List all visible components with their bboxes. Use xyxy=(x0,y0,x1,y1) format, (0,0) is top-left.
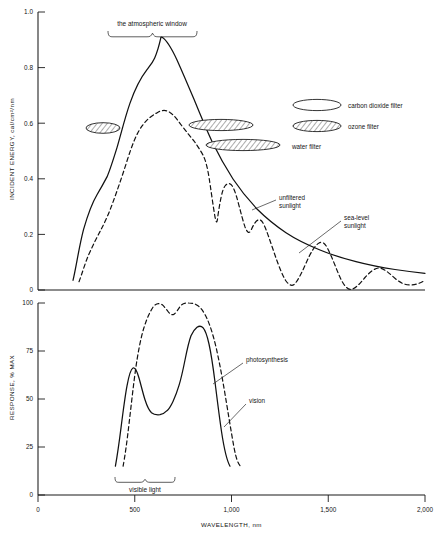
legend-label-water: water filter xyxy=(291,143,321,150)
bottom-x-axis-title: WAVELENGTH, nm xyxy=(201,521,262,528)
bottom-ytick-100: 100 xyxy=(22,299,33,306)
photosynthesis-label: photosynthesis xyxy=(246,356,288,364)
bottom-xtick-1000: 1,000 xyxy=(224,506,240,513)
top-ytick-0-4: 0.4 xyxy=(24,175,33,182)
vision-label: vision xyxy=(249,397,266,404)
legend-item-ozone: ozone filter xyxy=(293,120,379,131)
unfiltered-sunlight-annotation: unfiltered sunlight xyxy=(252,194,305,210)
legend-label-ozone: ozone filter xyxy=(348,123,379,130)
bottom-ytick-25: 25 xyxy=(26,443,34,450)
unfiltered-sunlight-label-line1: unfiltered xyxy=(279,194,305,201)
visible-light-label: visible light xyxy=(129,486,161,494)
bottom-xtick-2000: 2,000 xyxy=(417,506,433,513)
curve-photosynthesis xyxy=(115,326,230,466)
chart-biological-response: 100 75 50 25 0 RESPONSE, % MAX 0 500 1,0… xyxy=(8,299,433,528)
legend-item-water: water filter xyxy=(291,143,321,150)
bottom-ytick-75: 75 xyxy=(26,347,34,354)
legend-item-carbon-dioxide: carbon dioxide filter xyxy=(293,99,403,110)
filter-band-carbon-dioxide xyxy=(189,119,253,130)
filter-band-water xyxy=(206,139,280,150)
top-ytick-1-0: 1.0 xyxy=(24,8,33,15)
figure-canvas: 1.0 0.8 0.6 0.4 0.2 0 INCIDENT ENERGY, c… xyxy=(0,0,435,539)
top-ytick-0-2: 0.2 xyxy=(24,231,33,238)
legend-label-carbon-dioxide: carbon dioxide filter xyxy=(348,102,403,109)
bottom-xtick-1500: 1,500 xyxy=(320,506,336,513)
sea-level-sunlight-label-line1: sea-level xyxy=(344,214,369,221)
sea-level-sunlight-label-line2: sunlight xyxy=(344,222,366,230)
curve-unfiltered-sunlight xyxy=(73,37,425,280)
bottom-y-axis-title: RESPONSE, % MAX xyxy=(8,355,15,420)
top-ytick-0-6: 0.6 xyxy=(24,120,33,127)
bottom-y-ticks xyxy=(38,303,45,495)
top-y-ticks xyxy=(38,12,45,290)
bottom-xtick-0: 0 xyxy=(36,506,40,513)
unfiltered-sunlight-label-line2: sunlight xyxy=(279,202,301,210)
bottom-ytick-0: 0 xyxy=(29,491,33,498)
atmospheric-window-brace xyxy=(108,31,197,37)
ozone-marker-icon xyxy=(293,120,341,131)
filter-legend: carbon dioxide filter ozone filter water… xyxy=(291,99,403,149)
top-y-axis-title: INCIDENT ENERGY, cal/cm²/nm xyxy=(8,98,15,200)
bottom-xtick-500: 500 xyxy=(129,506,140,513)
atmospheric-window-label: the atmospheric window xyxy=(117,20,187,28)
solar-spectrum-figure: 1.0 0.8 0.6 0.4 0.2 0 INCIDENT ENERGY, c… xyxy=(0,0,435,539)
top-ytick-0-8: 0.8 xyxy=(24,64,33,71)
curve-sea-level-sunlight xyxy=(79,110,425,289)
bottom-ytick-50: 50 xyxy=(26,395,34,402)
bottom-x-ticks xyxy=(38,495,425,502)
filter-band-ozone xyxy=(86,123,120,134)
carbon-dioxide-marker-icon xyxy=(293,99,341,110)
visible-light-brace xyxy=(115,477,175,482)
photosynthesis-annotation: photosynthesis xyxy=(213,356,288,384)
sea-level-sunlight-annotation: sea-level sunlight xyxy=(299,214,369,253)
top-ytick-0: 0 xyxy=(29,286,33,293)
chart-incident-energy: 1.0 0.8 0.6 0.4 0.2 0 INCIDENT ENERGY, c… xyxy=(8,8,425,293)
